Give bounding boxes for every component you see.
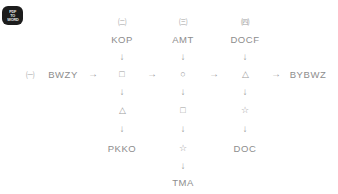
shape-column-2-second: □ bbox=[180, 106, 185, 115]
watermark-line-3: WORD bbox=[7, 18, 18, 22]
arrow-right-4: → bbox=[271, 69, 281, 79]
marker-start: ㈠ bbox=[26, 68, 35, 80]
arrow-down-col1-3: ↓ bbox=[120, 124, 125, 134]
node-column-1-header: KOP bbox=[111, 34, 133, 45]
marker-column-1: ㈡ bbox=[118, 15, 127, 27]
arrow-down-col2-2: ↓ bbox=[181, 87, 186, 97]
node-column-2-header: AMT bbox=[172, 34, 194, 45]
shape-column-1-second: △ bbox=[119, 106, 126, 115]
arrow-down-col2-1: ↓ bbox=[181, 52, 186, 62]
arrow-down-col2-3: ↓ bbox=[181, 124, 186, 134]
shape-column-2-third: ☆ bbox=[179, 144, 187, 153]
node-start-label: BWZY bbox=[48, 69, 78, 80]
shape-column-3-main: △ bbox=[242, 70, 249, 79]
arrow-down-col2-4: ↓ bbox=[181, 161, 186, 171]
marker-column-2: ㈢ bbox=[179, 15, 188, 27]
shape-column-1-main: □ bbox=[119, 70, 124, 79]
node-column-3-footer: DOC bbox=[234, 143, 257, 154]
node-column-1-footer: PKKO bbox=[108, 143, 137, 154]
diagram-canvas: PDF TO WORD ㈠ BWZY → ㈡ KOP ↓ □ ↓ △ ↓ PKK… bbox=[0, 0, 338, 194]
arrow-down-col1-2: ↓ bbox=[120, 87, 125, 97]
arrow-down-col3-3: ↓ bbox=[243, 124, 248, 134]
arrow-down-col3-2: ↓ bbox=[243, 87, 248, 97]
arrow-down-col1-1: ↓ bbox=[120, 52, 125, 62]
shape-column-2-main: ○ bbox=[180, 70, 185, 79]
arrow-right-1: → bbox=[88, 69, 98, 79]
node-column-2-footer: TMA bbox=[172, 177, 194, 188]
shape-column-3-second: ☆ bbox=[241, 106, 249, 115]
arrow-down-col3-1: ↓ bbox=[243, 52, 248, 62]
node-end-label: BYBWZ bbox=[290, 69, 327, 80]
watermark-badge: PDF TO WORD bbox=[2, 6, 23, 25]
arrow-right-3: → bbox=[209, 69, 219, 79]
marker-column-3: ㈣ bbox=[241, 15, 250, 27]
node-column-3-header: DOCF bbox=[230, 34, 259, 45]
arrow-right-2: → bbox=[147, 69, 157, 79]
